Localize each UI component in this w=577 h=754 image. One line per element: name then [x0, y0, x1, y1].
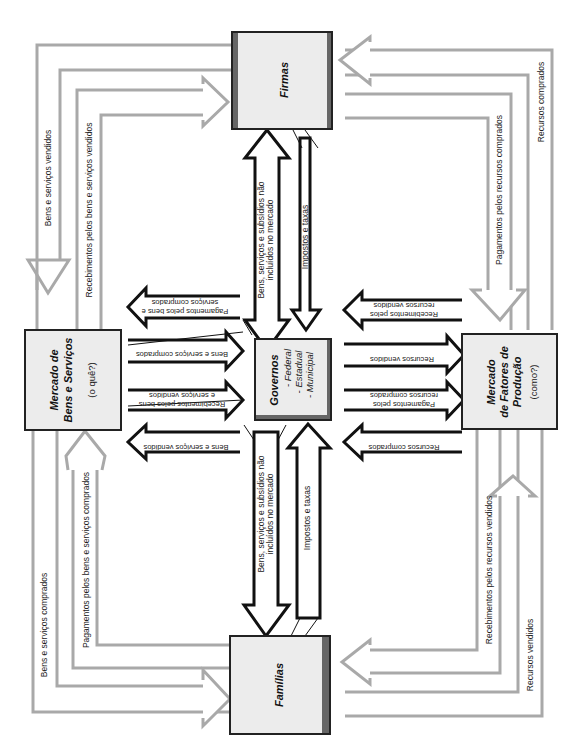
mercado-fatores-line3: Produção	[511, 356, 523, 407]
box-mercado-fatores: Mercado de Fatores de Produção (como?)	[462, 334, 557, 429]
mercado-bens-subtitle: (o quê?)	[86, 362, 97, 397]
label-firmas-impostos: Impostos e taxas	[300, 205, 310, 269]
governos-title: Governos	[268, 354, 280, 405]
svg-text:recursos comprados: recursos comprados	[370, 391, 438, 400]
governos-estadual: - Estadual	[293, 350, 304, 394]
flow-recursos-comprados	[340, 37, 552, 330]
svg-text:recursos vendidos: recursos vendidos	[373, 301, 434, 310]
label-recursos-vendidos: Recursos vendidos	[525, 619, 535, 691]
label-fatores-2: Recursos vendidos	[370, 355, 434, 364]
mercado-bens-line1: Mercado de	[48, 349, 60, 410]
label-bens-4: Bens e serviços vendidos	[143, 443, 228, 452]
label-group-fatores-3: Pagamentos pelos recursos comprados	[370, 391, 438, 409]
svg-text:Pagamentos pelos: Pagamentos pelos	[373, 400, 435, 409]
firmas-title: Firmas	[278, 62, 290, 98]
label-group-fatores-1: Recebimentos pelos recursos vendidos	[370, 301, 438, 319]
governos-municipal: - Municipal	[304, 351, 315, 398]
svg-text:Pagamentos pelos bens e: Pagamentos pelos bens e	[142, 307, 229, 316]
flow-bens-servicos-comprados	[33, 430, 232, 726]
box-familias: Famílias	[230, 636, 330, 734]
label-group-bens-1: Pagamentos pelos bens e serviços comprad…	[142, 298, 229, 316]
label-recebimentos-bens-vendidos: Recebimentos pelos bens e serviços vendi…	[84, 123, 94, 298]
label-fatores-4: Recursos comprados	[368, 443, 439, 452]
svg-text:Recebimentos pelos bens: Recebimentos pelos bens	[139, 400, 226, 409]
familias-title: Famílias	[273, 663, 285, 707]
svg-text:serviços comprados: serviços comprados	[151, 298, 218, 307]
flow-recebimentos-bens-vendidos	[77, 78, 228, 330]
label-gov-familias-line2: incluídos no mercado	[265, 473, 275, 554]
mercado-fatores-line1: Mercado	[485, 359, 497, 405]
label-pagamentos-bens-comprados: Pagamentos pelos bens e serviços comprad…	[81, 472, 91, 648]
flow-recebimentos-recursos-vendidos	[342, 430, 535, 684]
box-firmas: Firmas	[232, 32, 332, 129]
flow-bens-servicos-vendidos	[37, 45, 232, 330]
arrowhead-down-bens	[28, 260, 69, 293]
svg-text:e serviços vendidos: e serviços vendidos	[149, 391, 215, 400]
mercado-bens-line2: Bens e Serviços	[62, 338, 74, 423]
governos-federal: - Federal	[282, 348, 293, 387]
label-gov-firmas-line2: incluídos no mercado	[265, 199, 275, 280]
box-governos: Governos - Federal - Estadual - Municipa…	[255, 339, 331, 420]
mercado-fatores-subtitle: (como?)	[528, 365, 539, 400]
label-pagamentos-recursos-comprados: Pagamentos pelos recursos comprados	[494, 115, 504, 265]
label-bens-2: Bens e serviços comprados	[136, 350, 228, 359]
box-mercado-bens-servicos: Mercado de Bens e Serviços (o quê?)	[25, 330, 121, 430]
circular-flow-diagram: Bens e serviços vendidos Recebimentos pe…	[0, 0, 577, 754]
svg-text:Recebimentos pelos: Recebimentos pelos	[370, 310, 438, 319]
label-bens-servicos-comprados: Bens e serviços comprados	[39, 573, 49, 677]
label-recebimentos-recursos-vendidos: Recebimentos pelos recursos vendidos	[484, 496, 494, 644]
label-recursos-comprados: Recursos comprados	[536, 62, 546, 142]
label-familias-impostos: Impostos e taxas	[302, 486, 312, 550]
label-bens-servicos-vendidos: Bens e serviços vendidos	[43, 130, 53, 226]
mercado-fatores-line2: de Fatores de	[498, 346, 510, 418]
label-group-bens-3: Recebimentos pelos bens e serviços vendi…	[139, 391, 226, 409]
